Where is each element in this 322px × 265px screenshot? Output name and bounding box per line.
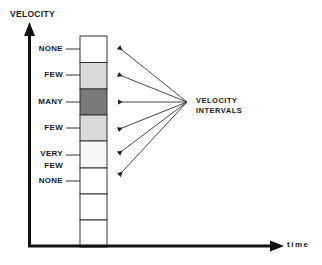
velocity-intervals-annotation: VELOCITY INTERVALS xyxy=(196,96,242,116)
interval-arrows xyxy=(122,50,187,172)
diagram-canvas xyxy=(0,0,322,265)
interval-label-none-bottom: NONE xyxy=(20,176,63,185)
interval-label-very-few: FEW xyxy=(20,161,63,170)
annotation-line-2: INTERVALS xyxy=(196,106,242,116)
label-leaders xyxy=(66,49,80,181)
velocity-column xyxy=(80,36,107,247)
interval-label-few-upper: FEW xyxy=(20,70,63,79)
annotation-line-1: VELOCITY xyxy=(196,96,242,106)
interval-label-few-lower: FEW xyxy=(20,123,63,132)
y-axis-title: VELOCITY xyxy=(10,9,55,19)
interval-label-none-top: NONE xyxy=(20,44,63,53)
interval-label-many: MANY xyxy=(20,97,63,106)
x-axis-title: time xyxy=(287,240,309,249)
axes xyxy=(24,22,284,252)
interval-label-very: VERY xyxy=(20,149,63,158)
